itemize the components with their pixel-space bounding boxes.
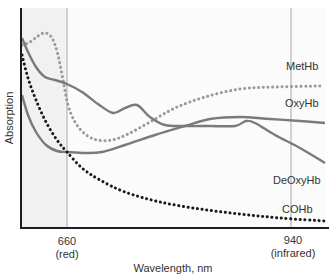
label-cohb: COHb: [282, 203, 313, 215]
label-deoxyhb: DeOxyHb: [273, 174, 321, 186]
y-axis-label: Absorption: [3, 92, 15, 145]
absorption-spectrum-chart: Absorption 660 (red) 940 (infrared) Wave…: [0, 0, 329, 276]
x-tick-660-sub: (red): [55, 248, 78, 260]
label-methb: MetHb: [286, 60, 318, 72]
x-tick-940: 940: [284, 234, 302, 246]
plot-background: [67, 8, 325, 228]
label-oxyhb: OxyHb: [285, 97, 319, 109]
x-tick-940-sub: (infrared): [271, 247, 316, 259]
x-axis-label: Wavelength, nm: [133, 262, 212, 274]
x-tick-660: 660: [58, 235, 76, 247]
